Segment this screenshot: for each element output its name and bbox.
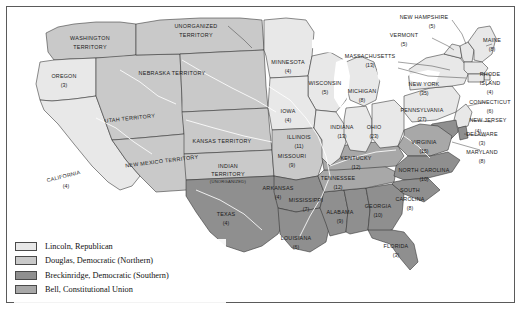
legend-label-breckinridge: Breckinridge, Democratic (Southern) [45,271,169,280]
votes-north-carolina: (10) [419,176,428,182]
region-florida [368,230,418,270]
votes-texas: (4) [223,220,230,226]
votes-michigan: (8) [359,97,366,103]
label-california: CALIFORNIA [46,169,81,183]
votes-new-hampshire: (5) [429,23,436,29]
legend-swatch-lincoln [15,242,37,251]
votes-new-york: (35) [419,90,428,96]
election-map-figure: WASHINGTON TERRITORY UNORGANIZED TERRITO… [0,0,523,311]
map-legend: Lincoln, Republican Douglas, Democratic … [14,239,226,303]
votes-south-carolina: (8) [407,205,414,211]
label-north-carolina: NORTH CAROLINA [399,167,450,173]
label-oregon: OREGON [51,73,76,79]
votes-alabama: (9) [337,218,344,224]
legend-swatch-douglas [15,256,37,265]
region-utah-territory [96,54,184,140]
label-indian-territory-line1: INDIAN [218,163,238,169]
votes-iowa: (4) [285,117,292,123]
votes-delaware: (3) [479,140,486,146]
label-south-carolina-line2: CAROLINA [395,196,424,202]
label-connecticut: CONNECTICUT [469,99,511,105]
votes-tennessee: (12) [333,184,342,190]
votes-kentucky: (12) [351,164,360,170]
label-delaware: DELAWARE [466,131,498,137]
votes-massachusetts: (13) [365,62,374,68]
label-unorganized-territory-line2: TERRITORY [179,32,213,38]
legend-swatch-breckinridge [15,271,37,280]
label-new-york: NEW YORK [409,81,440,87]
votes-mississippi: (7) [303,206,310,212]
votes-ohio: (23) [369,133,378,139]
legend-label-douglas: Douglas, Democratic (Northern) [45,256,153,265]
legend-item-lincoln: Lincoln, Republican [14,239,226,254]
label-indian-territory-sub: (UNORGANIZED) [210,179,247,184]
votes-minnesota: (4) [285,68,292,74]
region-arkansas [274,176,324,212]
votes-oregon: (3) [61,82,68,88]
label-maryland: MARYLAND [466,149,497,155]
label-virginia: VIRGINIA [411,139,436,145]
votes-maine: (8) [489,46,496,52]
legend-item-douglas: Douglas, Democratic (Northern) [14,254,226,269]
label-georgia: GEORGIA [365,203,392,209]
lake-huron-erie [376,54,410,88]
label-iowa: IOWA [281,108,296,114]
votes-georgia: (10) [373,212,382,218]
label-arkansas: ARKANSAS [263,185,294,191]
legend-item-breckinridge: Breckinridge, Democratic (Southern) [14,268,226,283]
label-florida: FLORIDA [384,243,409,249]
votes-louisiana: (6) [293,244,300,250]
label-kentucky: KENTUCKY [341,155,372,161]
label-illinois: ILLINOIS [287,134,311,140]
label-rhode-island-line1: RHODE [480,71,501,77]
label-louisiana: LOUISIANA [281,235,312,241]
votes-rhode-island: (4) [487,89,494,95]
label-missouri: MISSOURI [278,153,306,159]
label-new-jersey: NEW JERSEY [469,117,506,123]
label-south-carolina-line1: SOUTH [400,187,420,193]
label-alabama: ALABAMA [327,209,354,215]
legend-label-bell: Bell, Constitutional Union [45,285,133,294]
votes-pennsylvania: (27) [417,116,426,122]
label-minnesota: MINNESOTA [271,59,305,65]
votes-connecticut: (6) [487,108,494,114]
label-wisconsin: WISCONSIN [309,80,342,86]
legend-label-lincoln: Lincoln, Republican [45,242,113,251]
region-georgia [366,184,404,234]
label-pennsylvania: PENNSYLVANIA [401,107,444,113]
label-new-hampshire: NEW HAMPSHIRE [400,14,449,20]
label-tennessee: TENNESSEE [321,175,356,181]
label-nebraska-territory: NEBRASKA TERRITORY [139,70,206,76]
votes-florida: (3) [393,252,400,258]
label-washington-territory-line1: WASHINGTON [70,35,110,41]
region-pennsylvania [404,86,460,122]
label-indiana: INDIANA [330,124,353,130]
label-indian-territory-line2: TERRITORY [211,171,245,177]
votes-virginia: (15) [419,148,428,154]
label-michigan: MICHIGAN [348,88,377,94]
region-kansas-territory [182,108,272,154]
label-kansas-territory: KANSAS TERRITORY [192,138,251,144]
region-oregon [36,58,96,101]
votes-maryland: (8) [479,158,486,164]
votes-missouri: (9) [289,162,296,168]
region-nebraska-territory [180,50,268,112]
label-mississippi: MISSISSIPPI [289,197,323,203]
votes-arkansas: (4) [275,194,282,200]
legend-item-bell: Bell, Constitutional Union [14,283,226,298]
label-washington-territory-line2: TERRITORY [73,44,107,50]
votes-vermont: (5) [401,41,408,47]
label-ohio: OHIO [367,124,382,130]
votes-illinois: (11) [295,143,304,149]
label-rhode-island-line2: ISLAND [480,80,501,86]
region-washington-territory [46,22,136,60]
lake-superior [312,32,382,54]
label-texas: TEXAS [217,211,236,217]
votes-california: (4) [63,183,70,189]
votes-wisconsin: (5) [322,89,329,95]
label-unorganized-territory-line1: UNORGANIZED [174,23,217,29]
legend-swatch-bell [15,285,37,294]
label-vermont: VERMONT [390,32,419,38]
label-maine: MAINE [483,37,501,43]
votes-indiana: (13) [337,133,346,139]
